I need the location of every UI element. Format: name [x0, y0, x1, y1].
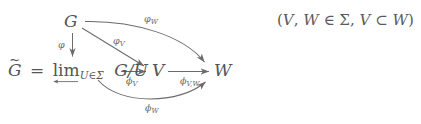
commutative-diagram-figure: G ~G = lim U∈Σ G/U V W φ φV φW ϕV ϕV,W ϕ… [0, 0, 421, 124]
label-phi-vw-sub: V,W [186, 80, 199, 88]
leftarrow-under-lim-icon [53, 79, 79, 84]
annotation-comma-1: , [294, 11, 299, 29]
label-phi-text: φ [58, 39, 65, 50]
annotation-v2: V [360, 11, 371, 29]
label-varphi-w: φW [144, 14, 158, 25]
annotation-v: V [283, 11, 294, 29]
equals-sign: = [30, 60, 44, 80]
annotation-comma-2: , [350, 11, 355, 29]
label-phi: φ [58, 40, 65, 50]
label-phi-v-sub: V [132, 80, 137, 88]
annotation-w2: W [393, 11, 408, 29]
annotation-sigma: Σ [339, 11, 350, 29]
label-varphi-v-text: φ [113, 35, 120, 46]
node-w-label: W [214, 60, 231, 80]
label-phi-w-sub: W [151, 107, 158, 115]
node-g-label: G [64, 11, 78, 31]
node-v-label: V [152, 60, 164, 80]
condition-annotation: (V, W ∈ Σ, V ⊂ W) [277, 13, 414, 28]
node-v: V [152, 62, 164, 79]
arrow-g-to-w [85, 21, 205, 62]
label-phi-vw: ϕV,W [180, 76, 199, 87]
node-g: G [64, 13, 78, 30]
tilde-accent-icon: ~ [9, 53, 20, 66]
label-phi-v: ϕV [126, 76, 137, 87]
node-w: W [214, 62, 231, 79]
inverse-limit-operator: lim [53, 62, 80, 79]
label-phi-w: ϕW [145, 103, 159, 114]
annotation-in-symbol: ∈ [323, 11, 334, 29]
annotation-w: W [303, 11, 318, 29]
annotation-subset-symbol: ⊂ [375, 11, 388, 29]
label-varphi-v: φV [113, 36, 125, 47]
label-varphi-v-sub: V [120, 40, 125, 48]
lim-subscript: U∈Σ [80, 69, 104, 81]
annotation-close-paren: ) [408, 11, 414, 29]
label-varphi-w-text: φ [144, 13, 151, 24]
node-gtilde: ~G [8, 62, 22, 79]
label-varphi-w-sub: W [151, 18, 158, 26]
lim-text: lim [53, 60, 80, 80]
